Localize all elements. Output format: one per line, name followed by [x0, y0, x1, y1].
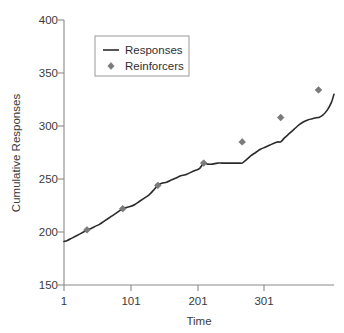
legend-label-reinforcers: Reinforcers [125, 60, 184, 72]
reinforcer-marker [315, 87, 322, 94]
y-axis-ticks [58, 20, 64, 285]
reinforcer-marker [239, 139, 246, 146]
y-tick-label-350: 350 [39, 67, 58, 79]
y-tick-label-300: 300 [39, 120, 58, 132]
chart-legend: Responses Reinforcers [95, 36, 189, 76]
responses-line [64, 94, 334, 241]
x-axis-title: Time [186, 315, 211, 327]
x-tick-label-101: 101 [121, 295, 140, 307]
chart-svg: Cumulative Responses 400 350 300 250 200… [0, 0, 344, 333]
y-tick-label-150: 150 [39, 279, 58, 291]
y-tick-label-400: 400 [39, 14, 58, 26]
legend-label-responses: Responses [125, 44, 183, 56]
x-tick-label-201: 201 [188, 295, 207, 307]
x-tick-label-301: 301 [254, 295, 273, 307]
reinforcer-marker [277, 114, 284, 121]
x-axis-ticks [64, 285, 264, 291]
y-tick-label-250: 250 [39, 173, 58, 185]
y-tick-label-200: 200 [39, 226, 58, 238]
y-axis-title: Cumulative Responses [10, 94, 22, 213]
x-tick-label-1: 1 [61, 295, 67, 307]
cumulative-response-chart: Cumulative Responses 400 350 300 250 200… [0, 0, 344, 333]
